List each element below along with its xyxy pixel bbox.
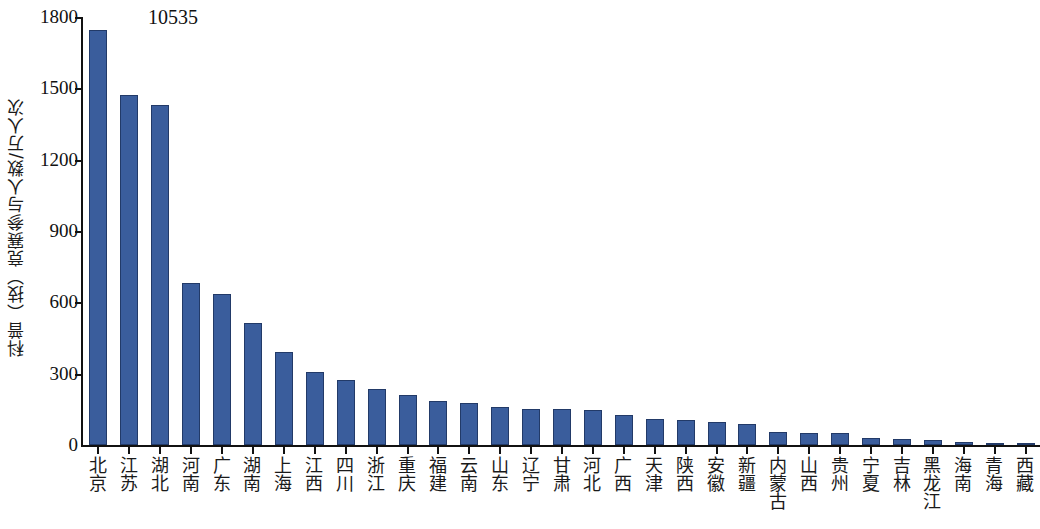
x-axis-tick-mark [499, 445, 501, 454]
x-axis-label-slot: 河南 [174, 456, 205, 492]
x-axis-tick-labels: 北京江苏湖北河南广东湖南上海江西四川浙江重庆福建云南山东辽宁甘肃河北广西天津陕西… [81, 456, 1039, 529]
x-axis-label-slot: 云南 [452, 456, 483, 492]
bar-slot [887, 17, 918, 445]
x-axis-tick-label: 重庆 [396, 456, 415, 492]
bar-slot [268, 17, 299, 445]
x-axis-tick-mark [746, 445, 748, 454]
bar [553, 409, 571, 445]
x-axis-tick-label: 河北 [581, 456, 600, 492]
x-axis-tick-label: 海南 [952, 456, 971, 492]
chart-figure: 科普（技）竞赛参与人数/万人次 0300600900120015001800 1… [0, 0, 1040, 529]
bar [677, 420, 695, 445]
x-axis-tick-label: 江苏 [118, 456, 137, 492]
bar-slot [701, 17, 732, 445]
bar [244, 323, 262, 445]
x-axis-label-slot: 浙江 [359, 456, 390, 492]
x-axis-label-slot: 湖南 [236, 456, 267, 492]
x-axis-tick-label: 安徽 [705, 456, 724, 492]
x-axis-tick-mark [407, 445, 409, 454]
bar [182, 283, 200, 445]
bar-slot [948, 17, 979, 445]
bar-slot [670, 17, 701, 445]
bar [460, 403, 478, 445]
x-axis-tick-label: 陕西 [674, 456, 693, 492]
x-axis-tick-label: 福建 [427, 456, 446, 492]
x-axis-tick-label: 青海 [983, 456, 1002, 492]
bar-slot [917, 17, 948, 445]
y-axis-tick-label: 1800 [40, 6, 78, 28]
x-axis-tick-label: 上海 [272, 456, 291, 492]
bar [120, 95, 138, 445]
x-axis-tick-mark [839, 445, 841, 454]
bar-slot [361, 17, 392, 445]
bar-slot [608, 17, 639, 445]
bar-slot [1010, 17, 1040, 445]
x-axis-tick-mark [870, 445, 872, 454]
bar-slot [825, 17, 856, 445]
bar [368, 389, 386, 445]
y-axis-tick-label: 1200 [40, 149, 78, 171]
bar-slot [83, 17, 114, 445]
bar-slot [114, 17, 145, 445]
x-axis-tick-label: 广东 [211, 456, 230, 492]
y-axis-tick-label: 300 [50, 363, 79, 385]
x-axis-label-slot: 海南 [946, 456, 977, 492]
x-axis-label-slot: 四川 [328, 456, 359, 492]
bar-slot [423, 17, 454, 445]
bar [306, 372, 324, 445]
x-axis-label-slot: 陕西 [668, 456, 699, 492]
bar [491, 407, 509, 445]
x-axis-tick-mark [159, 445, 161, 454]
x-axis-tick-mark [623, 445, 625, 454]
x-axis-label-slot: 辽宁 [514, 456, 545, 492]
x-axis-tick-mark [468, 445, 470, 454]
bar [337, 380, 355, 445]
x-axis-label-slot: 黑龙江 [915, 456, 946, 510]
bar [862, 438, 880, 445]
x-axis-label-slot: 安徽 [699, 456, 730, 492]
bar [213, 294, 231, 445]
x-axis-label-slot: 上海 [266, 456, 297, 492]
bar-slot [856, 17, 887, 445]
x-axis-label-slot: 天津 [637, 456, 668, 492]
bar-slot [979, 17, 1010, 445]
x-axis-tick-mark [252, 445, 254, 454]
y-axis-tick-mark [75, 231, 83, 233]
x-axis-tick-label: 湖北 [149, 456, 168, 492]
x-axis-label-slot: 河北 [576, 456, 607, 492]
bar [399, 395, 417, 445]
bar [584, 410, 602, 445]
y-axis-tick-label: 0 [69, 434, 79, 456]
x-axis-tick-label: 西藏 [1014, 456, 1033, 492]
x-axis-label-slot: 北京 [81, 456, 112, 492]
bar-slot [639, 17, 670, 445]
bar-slot [516, 17, 547, 445]
bar-slot [732, 17, 763, 445]
x-axis-label-slot: 广东 [205, 456, 236, 492]
y-axis-tick-mark [75, 17, 83, 19]
value-annotation: 10535 [148, 6, 198, 29]
x-axis-label-slot: 内蒙古 [761, 456, 792, 510]
x-axis-tick-label: 辽宁 [520, 456, 539, 492]
x-axis-tick-label: 湖南 [241, 456, 260, 492]
x-axis-label-slot: 福建 [421, 456, 452, 492]
x-axis-tick-label: 天津 [643, 456, 662, 492]
bar [738, 424, 756, 445]
x-axis-tick-mark [716, 445, 718, 454]
x-axis-label-slot: 湖北 [143, 456, 174, 492]
x-axis-label-slot: 西藏 [1008, 456, 1039, 492]
y-axis-tick-mark [75, 302, 83, 304]
bar-series [83, 17, 1040, 445]
x-axis-tick-mark [963, 445, 965, 454]
bar-slot [763, 17, 794, 445]
bar-slot [578, 17, 609, 445]
bar [522, 409, 540, 445]
bar-slot [207, 17, 238, 445]
y-axis-tick-labels: 0300600900120015001800 [30, 0, 78, 455]
x-axis-label-slot: 宁夏 [854, 456, 885, 492]
x-axis-tick-mark [314, 445, 316, 454]
x-axis-tick-mark [345, 445, 347, 454]
bar [151, 105, 169, 445]
x-axis-label-slot: 江西 [297, 456, 328, 492]
x-axis-tick-label: 黑龙江 [921, 456, 940, 510]
